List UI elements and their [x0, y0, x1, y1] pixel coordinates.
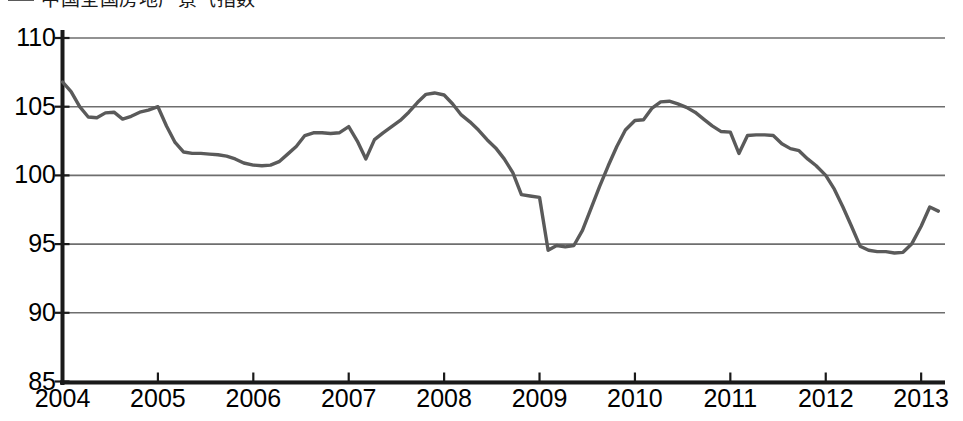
data-series-line — [63, 82, 939, 253]
plot-area — [0, 0, 963, 421]
chart-container: 中国全国房地产景气指数 859095100105110 200420052006… — [0, 0, 963, 421]
gridlines — [63, 38, 946, 382]
